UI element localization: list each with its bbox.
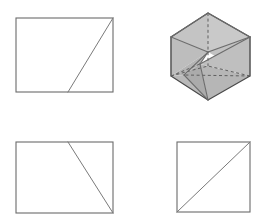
figure-bottom-right bbox=[177, 142, 250, 212]
figures-canvas bbox=[0, 0, 273, 222]
figure-top-left bbox=[16, 18, 113, 92]
rectangle-outline bbox=[16, 142, 113, 213]
rectangle-diagonal bbox=[68, 18, 113, 92]
rectangle-diagonal bbox=[68, 142, 113, 213]
figure-top-right bbox=[171, 13, 250, 100]
rectangle-outline bbox=[16, 18, 113, 92]
figure-plate bbox=[0, 0, 273, 222]
polyhedron-faces bbox=[171, 13, 250, 100]
square-diagonal bbox=[177, 142, 250, 212]
figure-bottom-left bbox=[16, 142, 113, 213]
